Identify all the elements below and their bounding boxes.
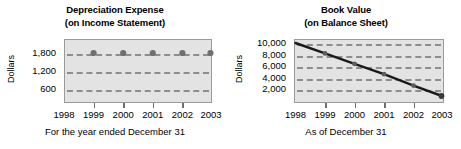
x-tick-label: 2001 [373,108,394,121]
y-tick-label: 2,000 [262,84,286,94]
chart-title-main: Book Value [231,4,461,17]
chart-title-main: Depreciation Expense [0,4,230,17]
x-tick-label: 2000 [344,108,365,121]
y-tick-label: 4,000 [262,73,286,83]
chart-panel-book-value: Book Value (on Balance Sheet) Dollars 10… [231,0,461,149]
series-line-book-value [294,39,444,103]
x-tick-label: 2003 [200,108,221,121]
x-tick-label: 2000 [113,108,134,121]
y-tick-label: 1,800 [32,48,56,58]
series-line-depreciation [64,39,212,103]
y-tick-label: 600 [40,84,56,94]
two-chart-figure: Depreciation Expense (on Income Statemen… [0,0,461,149]
chart-title: Depreciation Expense (on Income Statemen… [0,4,230,29]
plot-wrap [294,39,444,103]
x-tick-label: 1998 [53,108,74,121]
x-axis-caption: As of December 31 [231,125,461,138]
chart-title-subtitle: (on Income Statement) [0,17,230,30]
y-axis-tick-labels: 1,800 1,200 600 [0,39,60,103]
y-tick-label: 1,200 [32,66,56,76]
x-tick-label: 2002 [403,108,424,121]
x-tick-label: 1999 [83,108,104,121]
x-axis-tick-labels: 1998 1999 2000 2001 2002 2003 [50,108,226,121]
y-tick-label: 6,000 [262,61,286,71]
x-axis-caption: For the year ended December 31 [0,125,230,138]
chart-title-subtitle: (on Balance Sheet) [231,17,461,30]
x-tick-label: 1999 [314,108,335,121]
x-tick-label: 2002 [172,108,193,121]
y-tick-label: 8,000 [262,50,286,60]
plot-wrap [64,39,212,103]
x-tick-label: 1998 [285,108,306,121]
x-tick-label: 2003 [431,108,452,121]
x-axis-tick-labels: 1998 1999 2000 2001 2002 2003 [280,108,458,121]
chart-title: Book Value (on Balance Sheet) [231,4,461,29]
x-tick-label: 2001 [142,108,163,121]
y-tick-label: 10,000 [257,38,286,48]
chart-panel-depreciation-expense: Depreciation Expense (on Income Statemen… [0,0,230,149]
y-axis-tick-labels: 10,000 8,000 6,000 4,000 2,000 [231,39,290,103]
